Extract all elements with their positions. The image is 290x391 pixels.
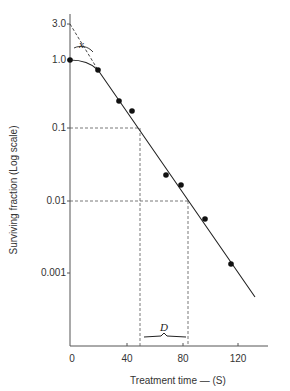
- annotation-D-brace: [144, 333, 186, 337]
- data-point: [116, 98, 122, 104]
- x-axis-title: Treatment time — (S): [130, 375, 226, 386]
- x-tick-label-80: 80: [177, 353, 189, 364]
- x-tick-label-120: 120: [230, 353, 247, 364]
- data-point: [202, 216, 208, 222]
- x-tick-label-40: 40: [121, 353, 133, 364]
- annotation-x-label: x: [78, 38, 84, 50]
- x-tick-label-0: 0: [69, 353, 75, 364]
- data-point: [95, 67, 101, 73]
- y-tick-label-3: 3.0: [52, 18, 66, 29]
- annotation-D-label: D: [159, 321, 168, 333]
- data-point: [228, 261, 234, 267]
- y-tick-label-0.1: 0.1: [52, 122, 66, 133]
- y-tick-label-0.001: 0.001: [41, 267, 66, 278]
- survival-curve: [70, 60, 255, 297]
- y-tick-label-1: 1.0: [52, 54, 66, 65]
- data-point: [178, 182, 184, 188]
- y-axis-title: Surviving fraction (Log scale): [8, 126, 19, 255]
- survival-curve-chart: 3.0 1.0 0.1 0.01 0.001 0 40 80 120 Treat…: [0, 0, 290, 391]
- data-point: [67, 57, 73, 63]
- data-point: [163, 172, 169, 178]
- guide-lines: [70, 128, 188, 346]
- data-point: [129, 108, 135, 114]
- data-points: [67, 57, 234, 267]
- y-tick-label-0.01: 0.01: [47, 195, 67, 206]
